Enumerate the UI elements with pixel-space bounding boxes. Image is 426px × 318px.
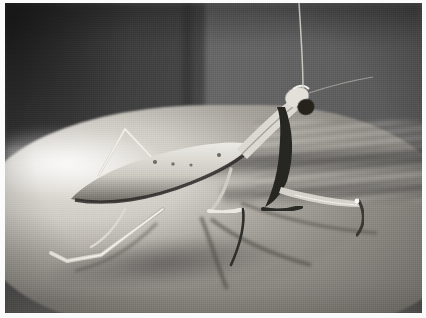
photo-viewer: [0, 0, 426, 318]
photograph: [5, 3, 422, 313]
vignette: [5, 3, 422, 313]
